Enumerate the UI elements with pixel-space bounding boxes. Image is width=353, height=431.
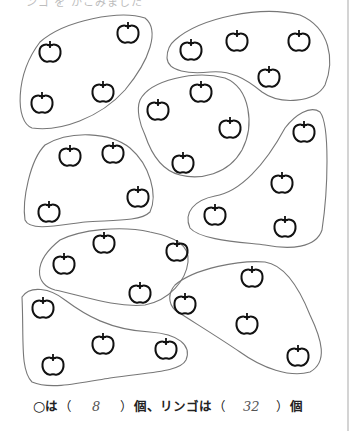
apple-icon: [39, 41, 60, 62]
close-paren-2: ）: [276, 396, 289, 415]
apple-icon: [258, 66, 279, 87]
apple-icon: [190, 81, 211, 102]
group-outline-4: [24, 135, 153, 227]
apple-icon: [129, 282, 150, 303]
apple-icon: [93, 232, 114, 253]
unit-label-2: 個: [290, 396, 303, 415]
apple-icon: [172, 152, 193, 173]
apple-icon: [59, 145, 80, 166]
apple-icon: [31, 92, 52, 113]
apple-icon: [166, 240, 187, 261]
apple-icon: [32, 297, 53, 318]
worksheet: ンゴ を かこみました ○ は （ 8 ） 個、 リンゴは: [0, 0, 353, 431]
apple-icon: [38, 201, 59, 222]
apple-icon: [241, 266, 262, 287]
apple-icon: [288, 30, 309, 51]
apple-icon: [155, 338, 176, 359]
ringo-label: リンゴは: [160, 396, 212, 415]
apple-icon: [204, 204, 225, 225]
unit-label-1: 個、: [134, 396, 160, 415]
group-outline-5: [188, 110, 327, 248]
apple-icon: [226, 30, 247, 51]
open-paren-1: （: [59, 396, 72, 415]
apple-icon: [236, 313, 257, 334]
apple-groups-illustration: [0, 0, 353, 431]
apple-icon: [102, 142, 123, 163]
apple-icon: [92, 333, 113, 354]
apple-icon: [42, 354, 63, 375]
open-paren-2: （: [213, 396, 226, 415]
circle-count-answer[interactable]: 8: [73, 399, 119, 414]
apple-icon: [271, 172, 292, 193]
apple-icon: [219, 117, 240, 138]
apple-icon: [174, 293, 195, 314]
apple-count-answer[interactable]: 32: [227, 399, 275, 414]
apple-icon: [274, 216, 295, 237]
apple-icon: [180, 39, 201, 60]
apple-icon: [127, 186, 148, 207]
apple-icon: [147, 99, 168, 120]
apples-layer: [31, 22, 314, 375]
apple-icon: [92, 81, 113, 102]
apple-icon: [53, 253, 74, 274]
wa-label-1: は: [45, 396, 58, 415]
circle-mark: ○: [33, 398, 45, 414]
close-paren-1: ）: [120, 396, 133, 415]
apple-icon: [117, 22, 138, 43]
apple-icon: [287, 345, 308, 366]
answer-line: ○ は （ 8 ） 個、 リンゴは （ 32 ） 個: [33, 396, 303, 415]
apple-icon: [293, 121, 314, 142]
